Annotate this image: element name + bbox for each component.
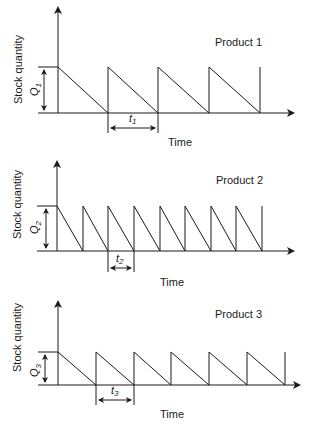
x-axis-label: Time bbox=[168, 136, 192, 148]
quantity-label: Q1 bbox=[28, 83, 43, 96]
period-label: t3 bbox=[111, 384, 119, 398]
chart-title: Product 1 bbox=[215, 36, 262, 48]
quantity-label: Q2 bbox=[28, 220, 43, 234]
quantity-label: Q3 bbox=[28, 363, 43, 377]
y-axis-label: Stock quantity bbox=[11, 169, 23, 239]
x-axis-label: Time bbox=[160, 408, 184, 420]
chart-title: Product 2 bbox=[216, 174, 263, 186]
y-axis-label: Stock quantity bbox=[12, 34, 24, 104]
x-axis-label: Time bbox=[160, 276, 184, 288]
stock-sawtooth bbox=[58, 352, 285, 385]
period-label: t2 bbox=[116, 252, 124, 266]
period-label: t1 bbox=[129, 112, 137, 126]
stock-sawtooth bbox=[57, 206, 262, 251]
chart-product-1 bbox=[38, 8, 293, 133]
inventory-sawtooth-diagrams: Product 1 Stock quantity Q1 t1 Time Prod… bbox=[0, 0, 309, 430]
stock-sawtooth bbox=[58, 67, 260, 113]
chart-title: Product 3 bbox=[215, 308, 262, 320]
y-axis-label: Stock quantity bbox=[11, 302, 23, 372]
